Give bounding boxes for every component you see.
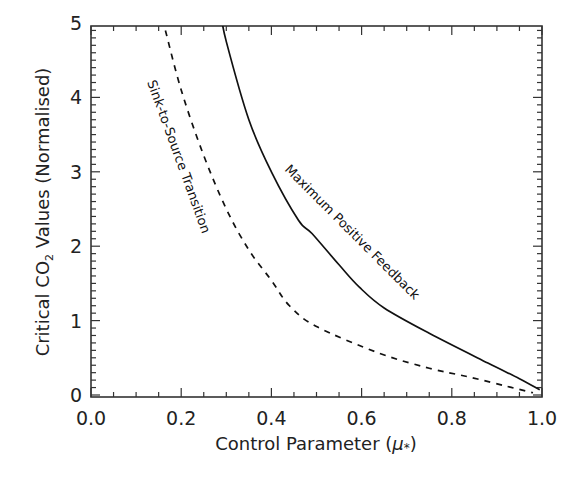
y-axis-label: Critical CO2 Values (Normalised) — [32, 68, 56, 357]
x-tick-label: 0.0 — [76, 407, 106, 429]
y-tick-label: 2 — [70, 235, 82, 257]
y-tick-label: 0 — [70, 384, 82, 406]
y-tick-label: 5 — [70, 12, 82, 34]
x-axis-label: Control Parameter (μ*) — [215, 433, 417, 455]
y-tick-label: 4 — [70, 86, 82, 108]
x-tick-label: 0.4 — [256, 407, 286, 429]
y-tick-label: 1 — [70, 310, 82, 332]
x-tick-label: 1.0 — [527, 407, 557, 429]
y-tick-label: 3 — [70, 161, 82, 183]
tick-labels: 0.00.20.40.60.81.0012345 — [70, 12, 557, 429]
curves — [165, 14, 539, 393]
label-maximum-positive-feedback: Maximum Positive Feedback — [282, 162, 423, 303]
x-tick-label: 0.2 — [166, 407, 196, 429]
x-tick-label: 0.8 — [437, 407, 467, 429]
chart: 0.00.20.40.60.81.0012345 Control Paramet… — [0, 0, 578, 490]
series-maximum-positive-feedback — [221, 14, 540, 390]
series-sink-to-source-transition — [165, 30, 533, 392]
x-tick-label: 0.6 — [346, 407, 376, 429]
label-sink-to-source-transition: Sink-to-Source Transition — [144, 78, 213, 235]
